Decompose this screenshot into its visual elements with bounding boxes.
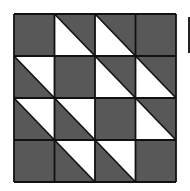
cell-1-1-solid xyxy=(55,56,96,98)
quilt-grid xyxy=(13,13,177,183)
cell-0-3-solid xyxy=(136,14,177,56)
cell-0-0-solid xyxy=(14,14,55,56)
cell-2-2-solid xyxy=(95,98,136,140)
cell-3-3-solid xyxy=(136,140,177,182)
quilt-block-diagram xyxy=(13,13,177,183)
cell-3-0-solid xyxy=(14,140,55,182)
edge-bar xyxy=(188,17,190,53)
